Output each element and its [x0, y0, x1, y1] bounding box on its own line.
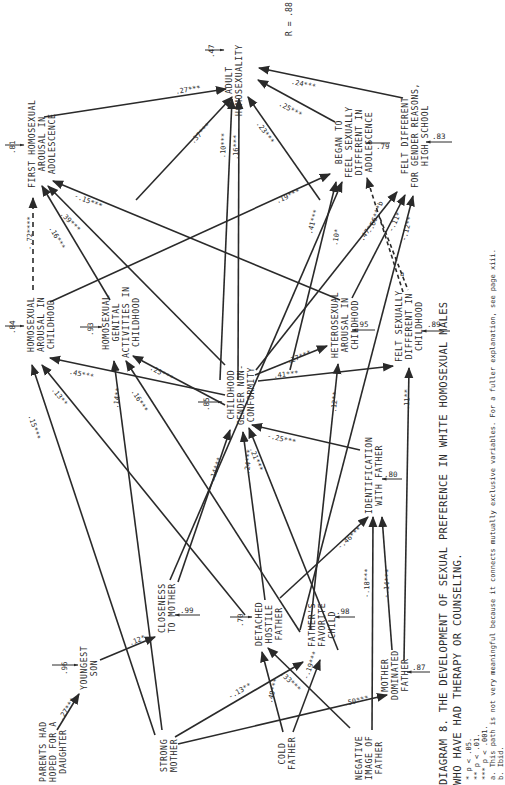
- node-felt-sexually-different-childhood: FELT SEXUALLY DIFFERENT IN CHILDHOOD: [394, 290, 424, 362]
- residual-genital: .93: [86, 322, 95, 336]
- residual-detached: .70: [236, 613, 245, 627]
- node-closeness-to-mother: CLOSENESS TO MOTHER: [157, 583, 177, 633]
- node-mother-dominated-father: MOTHER DOMINATED FATHER: [380, 650, 410, 700]
- path-first-arousal-adolescence-to-adult: [44, 89, 226, 117]
- node-childhood-gender-nonconformity: CHILDHOOD GENDER NON- CONFORMITY: [226, 364, 256, 425]
- node-felt-different-gender-reasons: FELT DIFFERENT FOR GENDER REASONS, HIGH …: [400, 83, 430, 188]
- diagram-title-line1: DIAGRAM 8. THE DEVELOPMENT OF SEXUAL PRE…: [437, 302, 449, 785]
- node-cold-father: COLD FATHER: [277, 737, 297, 770]
- residual-mother-dominated: .87: [412, 663, 426, 672]
- path-strong-mother-to-genital: [114, 361, 162, 730]
- path-gender-nonconformity-to-genital: [133, 356, 225, 405]
- residual-fathers-favorite: .98: [336, 607, 350, 616]
- node-first-homosexual-arousal-adolescence: FIRST HOMOSEXUAL AROUSAL IN ADOLESCENCE: [27, 100, 57, 188]
- node-detached-hostile-father: DETACHED HOSTILE FATHER: [254, 602, 284, 646]
- residual-homo-arousal: .84: [8, 320, 17, 334]
- node-adult-homosexuality: ADULT HOMOSEXUALITY: [224, 44, 244, 116]
- node-began-to-feel-sexually-different: BEGAN TO FEEL SEXUALLY DIFFERENT IN ADOL…: [334, 106, 374, 178]
- node-identification-with-father: IDENTIFICATION WITH FATHER: [364, 437, 384, 514]
- node-homosexual-genital-activities-childhood: HOMOSEXUAL GENITAL ACTIVITIES IN CHILDHO…: [101, 286, 141, 358]
- footnote-p01: ** p < .01.: [473, 734, 481, 780]
- r-value: R = .88: [285, 2, 294, 36]
- node-parents-hoped-for-daughter: PARENTS HAD HOPED FOR A DAUGHTER: [38, 721, 68, 782]
- residual-closeness: .99: [180, 606, 194, 615]
- path-closeness-mother-to-began: [170, 182, 342, 580]
- footnote-p05: * p < .05.: [465, 738, 473, 780]
- diagram-title-line2: WHO HAVE HAD THERAPY OR COUNSELING.: [451, 553, 463, 785]
- coef-negative-image-to-identification: -.18***: [363, 568, 372, 598]
- coef-homo-arousal-to-first: -.72****: [26, 216, 34, 250]
- footnote-b: b. Ibid.: [497, 746, 505, 780]
- residual-identification: .80: [384, 470, 398, 479]
- node-homosexual-arousal-childhood: HOMOSEXUAL AROUSAL IN CHILDHOOD: [26, 297, 56, 352]
- residual-began: .79: [376, 142, 390, 151]
- path-identification-to-adult: [248, 97, 320, 200]
- footnote-a: a. This path is not very meaningful beca…: [489, 249, 497, 780]
- coef-felt-sexually-to-felt-gender: a: [400, 270, 404, 278]
- coef-hetero-to-adult: .10***: [219, 133, 228, 159]
- node-strong-mother: STRONG MOTHER: [159, 739, 179, 772]
- path-hetero-arousal-to-first-arousal: [53, 181, 340, 300]
- node-youngest-son: YOUNGEST SON: [79, 646, 99, 690]
- footnote-p001: *** p < .001.: [481, 725, 489, 780]
- residual-felt-gender: .83: [432, 132, 446, 141]
- path-gender-nonconformity-to-adult: [136, 97, 232, 200]
- coef-felt-sexually-to-adult: .16***: [232, 135, 240, 160]
- coef-mother-dominated-to-felt-sexually: .11**: [403, 389, 411, 410]
- residual-hetero-arousal: .95: [355, 320, 369, 329]
- node-negative-image-of-father: NEGATIVE IMAGE OF FATHER: [354, 736, 384, 780]
- path-mother-dominated-to-felt-sexually-different: [404, 368, 409, 660]
- node-fathers-favorite-child: FATHER'S FAVORITE CHILD: [307, 603, 337, 647]
- residual-first-arousal: .81: [8, 140, 17, 154]
- residual-youngest: .96: [60, 661, 69, 675]
- residual-gender-nonconformity: .85: [202, 397, 211, 411]
- residual-adult: .47: [207, 44, 216, 58]
- path-felt-different-gender-to-adult: [259, 68, 403, 98]
